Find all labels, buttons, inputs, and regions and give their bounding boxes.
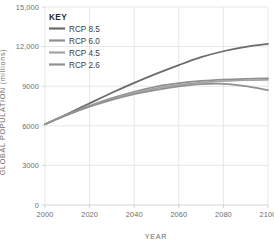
y-tick-label: 12,000: [16, 42, 39, 51]
x-tick-label: 2100: [260, 210, 274, 219]
legend-item-label: RCP 6.0: [69, 37, 100, 46]
y-tick-label: 3000: [22, 161, 39, 170]
y-tick-label: 0: [35, 201, 39, 210]
x-tick-label: 2040: [126, 210, 143, 219]
legend-title: KEY: [49, 12, 67, 22]
x-axis-title: YEAR: [145, 232, 167, 241]
x-tick-label: 2000: [37, 210, 54, 219]
legend-item-label: RCP 2.6: [69, 61, 100, 70]
x-tick-label: 2080: [215, 210, 232, 219]
y-axis-title: GLOBAL POPULATION (millions): [0, 49, 7, 176]
legend-item-label: RCP 8.5: [69, 25, 100, 34]
x-tick-label: 2060: [170, 210, 187, 219]
x-tick-label: 2020: [81, 210, 98, 219]
chart-container: 15,000 12,000 9000 6000 3000 0 2000 2020…: [0, 0, 274, 249]
y-tick-label: 9000: [22, 82, 39, 91]
population-projection-chart: 15,000 12,000 9000 6000 3000 0 2000 2020…: [0, 0, 274, 249]
y-tick-label: 6000: [22, 122, 39, 131]
y-tick-label: 15,000: [16, 3, 39, 12]
legend-item-label: RCP 4.5: [69, 49, 100, 58]
